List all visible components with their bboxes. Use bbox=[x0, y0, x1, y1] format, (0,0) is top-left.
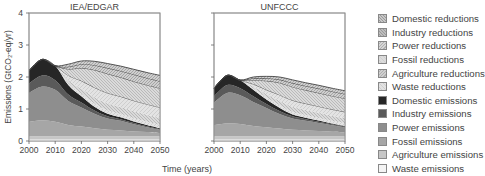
panel-title: UNFCCC bbox=[261, 2, 299, 12]
legend-swatch-icon bbox=[378, 82, 387, 91]
legend-label: Fossil reductions bbox=[392, 54, 464, 65]
legend-swatch-icon bbox=[378, 109, 387, 118]
legend-label: Domestic reductions bbox=[392, 13, 479, 24]
x-tick-label: 2010 bbox=[46, 145, 65, 155]
legend-item: Industry emissions bbox=[378, 107, 485, 121]
panel-unfccc: UNFCCC200020102020203020402050 bbox=[205, 2, 355, 155]
legend-item: Fossil emissions bbox=[378, 134, 485, 148]
legend-label: Industry reductions bbox=[392, 27, 473, 38]
x-tick-label: 2040 bbox=[309, 145, 328, 155]
legend-item: Waste emissions bbox=[378, 162, 485, 176]
legend-swatch-icon bbox=[378, 41, 387, 50]
x-tick-label: 2010 bbox=[231, 145, 250, 155]
legend-item: Industry reductions bbox=[378, 26, 485, 40]
legend-label: Power reductions bbox=[392, 40, 466, 51]
x-tick-label: 2020 bbox=[257, 145, 276, 155]
legend-label: Industry emissions bbox=[392, 108, 471, 119]
legend-item: Domestic reductions bbox=[378, 12, 485, 26]
panel-iea-edgar: IEA/EDGAR20002010202020302040205001234 bbox=[18, 2, 169, 155]
legend-swatch-icon bbox=[378, 55, 387, 64]
legend-item: Waste reductions bbox=[378, 80, 485, 94]
area-agriculture-emissions bbox=[214, 136, 345, 139]
legend-label: Agriculture reductions bbox=[392, 68, 485, 79]
legend-item: Agriculture reductions bbox=[378, 66, 485, 80]
legend-swatch-icon bbox=[378, 164, 387, 173]
legend-label: Fossil emissions bbox=[392, 136, 462, 147]
legend-item: Power emissions bbox=[378, 121, 485, 135]
y-tick-label: 1 bbox=[18, 104, 23, 114]
legend-label: Domestic emissions bbox=[392, 95, 477, 106]
x-tick-label: 2040 bbox=[124, 145, 143, 155]
legend-label: Waste reductions bbox=[392, 81, 466, 92]
y-tick-label: 3 bbox=[18, 40, 23, 50]
legend-swatch-icon bbox=[378, 123, 387, 132]
legend: Domestic reductionsIndustry reductionsPo… bbox=[378, 12, 485, 175]
x-tick-label: 2030 bbox=[283, 145, 302, 155]
y-axis-label: Emissions (GtCO₂-eq/yr) bbox=[3, 30, 13, 124]
legend-label: Waste emissions bbox=[392, 163, 464, 174]
x-tick-label: 2020 bbox=[72, 145, 91, 155]
x-tick-label: 2000 bbox=[205, 145, 224, 155]
legend-swatch-icon bbox=[378, 28, 387, 37]
legend-label: Agriculture emissions bbox=[392, 149, 483, 160]
y-tick-label: 0 bbox=[18, 136, 23, 146]
x-tick-label: 2030 bbox=[98, 145, 117, 155]
legend-label: Power emissions bbox=[392, 122, 465, 133]
y-tick-label: 2 bbox=[18, 72, 23, 82]
legend-item: Agriculture emissions bbox=[378, 148, 485, 162]
legend-swatch-icon bbox=[378, 69, 387, 78]
legend-item: Power reductions bbox=[378, 39, 485, 53]
x-tick-label: 2050 bbox=[151, 145, 170, 155]
legend-item: Fossil reductions bbox=[378, 53, 485, 67]
y-tick-label: 4 bbox=[18, 8, 23, 18]
legend-item: Domestic emissions bbox=[378, 94, 485, 108]
panel-title: IEA/EDGAR bbox=[70, 2, 120, 12]
legend-swatch-icon bbox=[378, 96, 387, 105]
area-agriculture-emissions bbox=[29, 136, 160, 139]
legend-swatch-icon bbox=[378, 14, 387, 23]
x-tick-label: 2050 bbox=[336, 145, 355, 155]
x-axis-label: Time (years) bbox=[162, 164, 212, 174]
x-tick-label: 2000 bbox=[20, 145, 39, 155]
legend-swatch-icon bbox=[378, 137, 387, 146]
legend-swatch-icon bbox=[378, 150, 387, 159]
